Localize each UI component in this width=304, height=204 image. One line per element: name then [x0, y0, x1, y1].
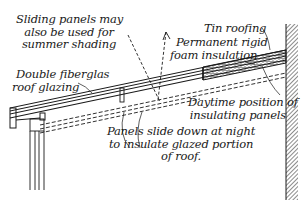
label-line: Sliding panels may — [16, 13, 122, 26]
label-tin-roofing: Tin roofing — [204, 22, 266, 35]
label-line: of roof. — [106, 150, 256, 163]
label-line: roof glazing — [12, 81, 109, 94]
label-line: insulating panels — [188, 109, 286, 122]
label-double-fiberglas: Double fiberglas roof glazing — [12, 68, 109, 93]
label-foam-insulation: Permanent rigid foam insulation — [170, 36, 268, 61]
label-daytime-position: Daytime position of insulating panels — [188, 96, 286, 121]
label-sliding-panels: Sliding panels may also be used for summ… — [16, 13, 122, 51]
label-line: Panels slide down at night — [106, 125, 256, 138]
label-line: Permanent rigid — [170, 36, 268, 49]
label-line: foam insulation — [170, 49, 268, 62]
window-frame — [30, 119, 44, 190]
roof-diagram: Sliding panels may also be used for summ… — [0, 0, 304, 204]
label-panels-slide: Panels slide down at night to insulate g… — [106, 125, 256, 163]
label-line: summer shading — [16, 38, 122, 51]
wall — [286, 24, 298, 200]
label-line: Double fiberglas — [12, 68, 109, 81]
label-line: Daytime position of — [188, 96, 286, 109]
